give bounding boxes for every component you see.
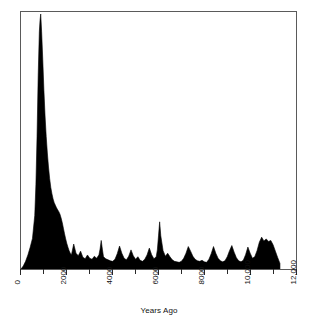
x-tick-label-0: 0 [13,280,22,284]
x-tick-4000 [112,269,113,275]
x-tick-0 [20,269,21,275]
area-series-path [21,14,280,269]
x-axis-title: Years Ago [20,306,298,315]
chart-figure: Probability of Occurrence 02000400060008… [0,0,311,326]
x-tick-1000 [43,269,44,274]
area-series-svg [21,12,296,269]
x-tick-6000 [158,269,159,275]
x-tick-10000 [250,269,251,275]
x-tick-9000 [227,269,228,274]
x-tick-7000 [181,269,182,274]
plot-area [20,11,297,270]
x-tick-8000 [204,269,205,275]
x-tick-3000 [89,269,90,274]
x-tick-11000 [273,269,274,274]
x-tick-12000 [296,269,297,275]
x-axis-tick-marks [20,269,298,277]
x-tick-5000 [135,269,136,274]
x-tick-2000 [66,269,67,275]
